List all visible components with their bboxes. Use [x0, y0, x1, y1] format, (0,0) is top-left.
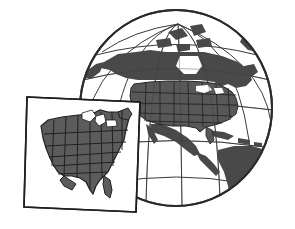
- globe-and-inset-illustration: Globe with North America and inset map o…: [0, 0, 295, 229]
- inset-map-united-states: [24, 97, 140, 212]
- lake-erie-ontario-inset: [106, 120, 117, 127]
- illustration-root: Globe with North America and inset map o…: [0, 0, 295, 229]
